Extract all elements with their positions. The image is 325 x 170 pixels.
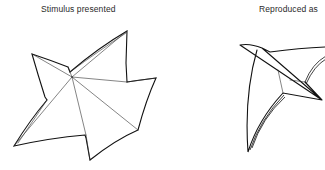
reproduction-drawing: [240, 44, 325, 152]
figure-canvas: [0, 0, 325, 170]
stimulus-star-outline: [14, 31, 156, 160]
reproduction-double-arc-lower: [250, 95, 285, 150]
stimulus-fold-lines: [14, 31, 156, 160]
reproduction-double-arc-right: [305, 56, 325, 84]
stimulus-upper-crease: [70, 33, 126, 72]
reproduction-outline: [240, 44, 325, 152]
stimulus-star-drawing: [14, 31, 156, 160]
